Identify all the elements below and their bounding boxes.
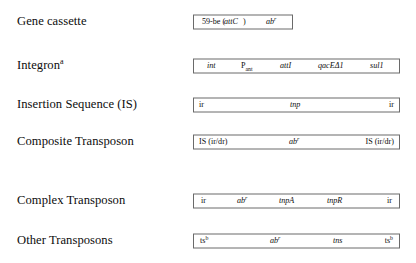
segment-text: ab (270, 236, 278, 245)
row-label-text: Other Transposons (17, 233, 113, 247)
row-label: Gene cassette (17, 15, 87, 28)
row-label-text: Composite Transposon (17, 134, 134, 148)
element-row: Other Transposonstsbabrtnstsb (0, 229, 416, 253)
segment-subscript: ant (246, 66, 253, 72)
segment-text: tns (333, 236, 342, 245)
genetic-element-segment: tsb (385, 237, 393, 245)
segment-text: qacEΔ1 (318, 61, 343, 70)
genetic-element-segment: IS (ir/dr) (365, 138, 394, 146)
row-label-text: Integron (17, 58, 60, 72)
genetic-element-segment: IS (ir/dr) (199, 138, 228, 146)
element-map-box: IS (ir/dr)abrIS (ir/dr) (193, 135, 400, 150)
genetic-element-segment: tns (333, 237, 342, 245)
genetic-element-segment: qacEΔ1 (318, 62, 343, 70)
genetic-element-segment: tnpA (279, 197, 294, 205)
genetic-element-segment: ir (201, 197, 206, 205)
element-map-box: irtnpir (193, 98, 400, 113)
segment-text: attC (224, 17, 238, 26)
segment-text: ir (201, 196, 206, 205)
segment-text: IS (ir/dr) (365, 137, 394, 146)
genetic-element-segment: ) (243, 18, 246, 26)
element-map-box: intPantattIqacEΔ1sul1 (193, 59, 400, 74)
row-label: Other Transposons (17, 234, 113, 247)
segment-text: tnpA (279, 196, 294, 205)
genetic-element-segment: abr (266, 18, 276, 26)
row-label: Composite Transposon (17, 135, 134, 148)
genetic-element-segment: tnp (290, 101, 300, 109)
genetic-element-segment: attC (224, 18, 238, 26)
element-row: Insertion Sequence (IS)irtnpir (0, 93, 416, 117)
segment-text: ir (389, 100, 394, 109)
element-map-box: tsbabrtnstsb (193, 234, 400, 249)
segment-footnote-superscript: b (390, 234, 393, 240)
genetic-element-segment: tsb (200, 237, 208, 245)
genetic-element-segment: abr (289, 138, 299, 146)
genetic-element-segment: int (207, 62, 216, 70)
row-label: Complex Transposon (17, 194, 125, 207)
genetic-element-segment: sul1 (370, 62, 384, 70)
element-map-box: 59-be (attC)abr (193, 15, 293, 30)
genetic-element-segment: tnpR (327, 197, 342, 205)
segment-text: ) (243, 17, 246, 26)
genetic-element-segment: 59-be ( (202, 18, 225, 26)
segment-text: sul1 (370, 61, 384, 70)
element-map-box: irabrtnpAtnpRir (193, 194, 400, 209)
segment-footnote-superscript: b (205, 234, 208, 240)
segment-text: ab (266, 17, 274, 26)
genetic-element-segment: attI (280, 62, 291, 70)
genetic-element-segment: ir (389, 101, 394, 109)
segment-text: ab (237, 196, 245, 205)
element-row: Composite TransposonIS (ir/dr)abrIS (ir/… (0, 130, 416, 154)
row-label-text: Gene cassette (17, 14, 87, 28)
segment-text: 59-be ( (202, 17, 225, 26)
segment-superscript: r (245, 194, 247, 200)
segment-text: ir (387, 196, 392, 205)
genetic-element-segment: Pant (241, 62, 253, 70)
segment-text: IS (ir/dr) (199, 137, 228, 146)
segment-text: tnp (290, 100, 300, 109)
element-row: IntegronaintPantattIqacEΔ1sul1 (0, 54, 416, 78)
genetic-element-segment: ir (199, 101, 204, 109)
segment-text: int (207, 61, 216, 70)
segment-text: tnpR (327, 196, 342, 205)
genetic-element-segment: abr (270, 237, 280, 245)
segment-superscript: r (297, 135, 299, 141)
mobile-genetic-elements-figure: Gene cassette59-be (attC)abrIntegronaint… (0, 0, 416, 263)
row-label-text: Insertion Sequence (IS) (17, 97, 137, 111)
segment-superscript: r (274, 15, 276, 21)
row-label: Integrona (17, 59, 64, 72)
element-row: Complex TransposonirabrtnpAtnpRir (0, 189, 416, 213)
segment-superscript: r (278, 234, 280, 240)
genetic-element-segment: abr (237, 197, 247, 205)
segment-text: ir (199, 100, 204, 109)
row-label-footnote-marker: a (60, 57, 64, 66)
segment-text: attI (280, 61, 291, 70)
row-label: Insertion Sequence (IS) (17, 98, 137, 111)
row-label-text: Complex Transposon (17, 193, 125, 207)
segment-text: ab (289, 137, 297, 146)
element-row: Gene cassette59-be (attC)abr (0, 10, 416, 34)
genetic-element-segment: ir (387, 197, 392, 205)
